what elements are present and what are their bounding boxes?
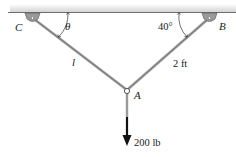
label-b: B <box>219 20 226 32</box>
label-theta: θ <box>65 20 71 32</box>
cable-ca <box>34 19 127 90</box>
joint-a-ring <box>124 88 129 93</box>
label-40-deg: 40° <box>158 21 173 32</box>
ceiling <box>8 4 236 13</box>
cable-diagram: C B θ 40° l 2 ft A 200 lb <box>0 0 236 157</box>
label-c: C <box>15 21 23 33</box>
support-b <box>202 13 217 22</box>
support-c <box>25 13 40 22</box>
label-2ft: 2 ft <box>173 58 187 69</box>
angle-40-arc <box>178 13 188 38</box>
label-a: A <box>133 89 141 101</box>
label-load: 200 lb <box>134 137 161 148</box>
label-l: l <box>72 56 75 68</box>
load-arrow <box>123 93 132 146</box>
